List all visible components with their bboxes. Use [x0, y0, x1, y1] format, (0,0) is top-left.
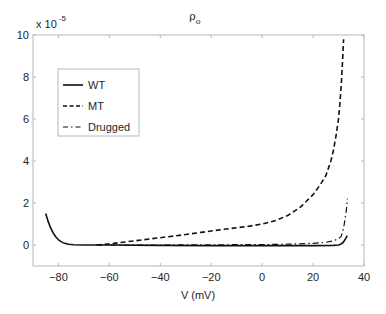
legend: WTMTDrugged — [58, 69, 139, 136]
title-subscript: o — [196, 17, 201, 26]
x-tick-label: 0 — [259, 271, 265, 283]
x-tick-label: −20 — [202, 271, 221, 283]
y-tick-label: 0 — [23, 239, 29, 251]
chart-figure: −80−60−40−20020400246810 ρo x 10-5 V (mV… — [0, 0, 386, 314]
legend-label-wt: WT — [88, 79, 105, 91]
x-tick-label: −80 — [49, 271, 68, 283]
y-tick-label: 10 — [17, 29, 29, 41]
y-tick-label: 4 — [23, 155, 29, 167]
y-tick-label: 8 — [23, 71, 29, 83]
x-tick-label: 20 — [307, 271, 319, 283]
y-tick-label: 6 — [23, 113, 29, 125]
legend-label-mt: MT — [88, 100, 104, 112]
x-tick-label: −60 — [100, 271, 119, 283]
x-axis-label: V (mV) — [181, 289, 215, 301]
x-tick-label: −40 — [151, 271, 170, 283]
y-tick-label: 2 — [23, 197, 29, 209]
figure-background — [0, 0, 386, 314]
x-tick-label: 40 — [358, 271, 370, 283]
legend-label-drugged: Drugged — [88, 121, 130, 133]
